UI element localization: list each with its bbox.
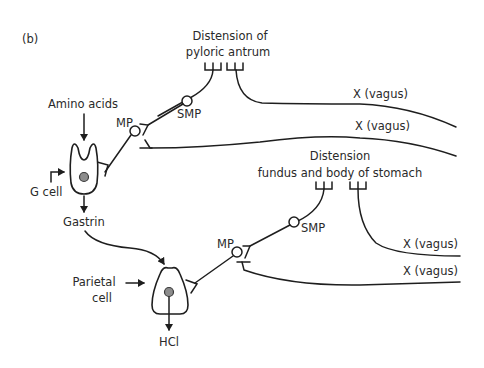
- top-stretch-receptor-left: [205, 63, 221, 70]
- top-smp-label: SMP: [177, 107, 201, 121]
- top-stimulus-line2: pyloric antrum: [186, 45, 270, 59]
- top-stretch-receptor-right: [227, 63, 243, 70]
- gastrin-to-parietal-arrow: [85, 231, 164, 264]
- parietal-label-line2: cell: [92, 291, 112, 305]
- bottom-stretch-receptor-left: [316, 182, 332, 189]
- g-cell-nucleus: [80, 173, 89, 182]
- mp-to-gcell-fiber: [105, 135, 131, 172]
- parietal-cell-nucleus: [165, 288, 174, 297]
- mp-to-parietal-fiber: [195, 256, 233, 283]
- bottom-mp-label: MP: [217, 237, 234, 251]
- bottom-mp-synapse: [243, 246, 250, 258]
- top-vagus-upper-fiber: [236, 70, 456, 127]
- g-cell: [70, 144, 98, 194]
- diagram-canvas: (b) Distension of pyloric antrum X (vagu…: [0, 0, 484, 368]
- bottom-smp-to-mp-fiber: [250, 225, 290, 246]
- g-cell-pointer-arrow: [51, 172, 64, 182]
- top-vagus-lower-fiber: [145, 137, 456, 156]
- gastric-secretion-diagram: (b) Distension of pyloric antrum X (vagu…: [0, 0, 484, 368]
- top-mp-label: MP: [116, 116, 133, 130]
- top-stimulus-line1: Distension of: [192, 29, 268, 43]
- gcell-synapse: [97, 162, 108, 176]
- panel-label: (b): [22, 32, 38, 46]
- top-mp-synapse: [140, 124, 148, 135]
- g-cell-label: G cell: [30, 185, 62, 199]
- amino-acids-label: Amino acids: [48, 97, 118, 111]
- bottom-stretch-receptor-right: [350, 182, 366, 189]
- bottom-vagus-upper-label: X (vagus): [403, 237, 458, 251]
- hcl-label: HCl: [159, 335, 179, 349]
- top-vagus-upper-label: X (vagus): [353, 87, 408, 101]
- bottom-smp-label: SMP: [301, 221, 325, 235]
- bottom-stimulus-line2: fundus and body of stomach: [258, 166, 422, 180]
- gastrin-label: Gastrin: [63, 215, 105, 229]
- bottom-stimulus-line1: Distension: [310, 149, 370, 163]
- top-vagus-lower-label: X (vagus): [355, 119, 410, 133]
- bottom-vagus-lower-label: X (vagus): [403, 264, 458, 278]
- parietal-label-line1: Parietal: [72, 275, 115, 289]
- bottom-afferent-to-smp: [296, 189, 324, 222]
